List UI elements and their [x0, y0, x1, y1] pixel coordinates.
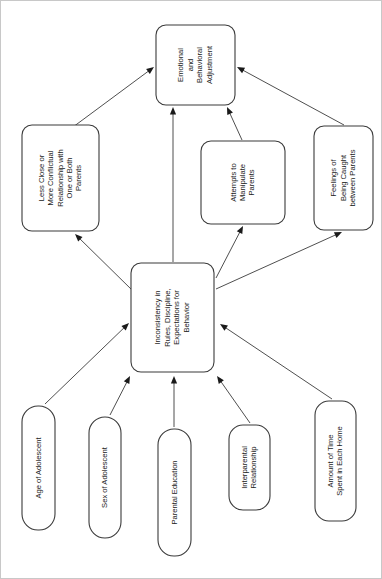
edge-arrow	[220, 324, 332, 399]
edge-arrow	[170, 107, 176, 262]
edge-line	[220, 381, 250, 423]
edge-line	[79, 238, 133, 291]
arrowhead-icon	[217, 376, 224, 384]
node-label-line: between Parents	[348, 149, 357, 206]
concept-diagram: EmotionalandBehavioralAdjustmentLess Clo…	[1, 1, 382, 579]
node-less-close-more-conflictual[interactable]: Less Close orMore ConflictualRelationshi…	[22, 125, 99, 231]
node-label-line: Manipulate	[238, 164, 247, 201]
edge-line	[216, 231, 240, 278]
arrowhead-icon	[237, 67, 245, 73]
node-label-line: and	[186, 59, 195, 72]
edges-layer	[45, 67, 344, 427]
edge-arrow	[75, 234, 133, 291]
node-label-line: Rules, Discipline,	[163, 288, 172, 346]
node-label-line: Feelings of	[329, 159, 338, 197]
node-interparental-relationship[interactable]: InterparentalRelationship	[229, 425, 270, 510]
edge-line	[45, 327, 125, 404]
node-label-line: Being Caught	[339, 154, 348, 201]
node-label-line: Age of Adolescent	[34, 437, 43, 499]
node-label-line: Interparental	[240, 446, 249, 489]
node-parental-education[interactable]: Parental Education	[158, 429, 191, 556]
edge-arrow	[110, 376, 130, 415]
edge-arrow	[217, 376, 250, 423]
arrowhead-icon	[171, 376, 177, 384]
node-amount-of-time-spent-in-each-home[interactable]: Amount of TimeSpent in Each Home	[315, 401, 356, 521]
node-label-line: Emotional	[176, 48, 185, 82]
edge-line	[73, 71, 149, 127]
node-label-line: Expectations for	[172, 290, 181, 345]
node-label-line: One or Both	[65, 158, 74, 199]
node-attempts-to-manipulate-parents[interactable]: Attempts toManipulateParents	[201, 141, 285, 224]
node-label-line: Attempts to	[229, 163, 238, 201]
node-label-line: Amount of Time	[326, 434, 335, 487]
node-label-line: Parental Education	[170, 460, 179, 524]
node-emotional-behavioral-adjustment[interactable]: EmotionalandBehavioralAdjustment	[156, 25, 235, 105]
edge-line	[110, 381, 127, 415]
node-sex-of-adolescent[interactable]: Sex of Adolescent	[89, 417, 121, 538]
edge-arrow	[237, 67, 344, 125]
arrowhead-icon	[146, 67, 154, 74]
node-label-line: Adjustment	[205, 45, 214, 84]
edge-arrow	[216, 226, 243, 278]
edge-arrow	[227, 107, 242, 140]
node-feelings-of-being-caught[interactable]: Feelings ofBeing Caughtbetween Parents	[314, 126, 373, 230]
node-label-line: Relationship with	[56, 149, 65, 206]
node-label-line: Spent in Each Home	[335, 426, 344, 496]
edge-line	[229, 112, 242, 140]
edge-arrow	[216, 232, 342, 289]
edge-arrow	[73, 67, 154, 127]
node-label-line: Parents	[74, 165, 83, 191]
node-label-line: More Conflictual	[46, 150, 55, 205]
node-label-line: Less Close or	[37, 154, 46, 201]
edge-line	[242, 70, 344, 125]
node-label-line: Behavioral	[195, 47, 204, 83]
node-label-line: Behavior	[182, 302, 191, 332]
node-age-of-adolescent[interactable]: Age of Adolescent	[22, 406, 55, 530]
edge-arrow	[171, 376, 177, 427]
edge-arrow	[45, 323, 129, 404]
edge-line	[225, 327, 332, 399]
arrowhead-icon	[220, 324, 228, 331]
node-inconsistency-in-rules[interactable]: Inconsistency inRules, Discipline,Expect…	[131, 263, 214, 372]
diagram-canvas-container: EmotionalandBehavioralAdjustmentLess Clo…	[0, 0, 382, 579]
node-label-line: Relationship	[249, 447, 258, 489]
node-label-line: Sex of Adolescent	[100, 446, 109, 508]
node-label-line: Inconsistency in	[153, 290, 162, 344]
arrowhead-icon	[170, 107, 176, 115]
nodes-layer: EmotionalandBehavioralAdjustmentLess Clo…	[22, 25, 373, 556]
node-label-line: Parents	[247, 169, 256, 195]
